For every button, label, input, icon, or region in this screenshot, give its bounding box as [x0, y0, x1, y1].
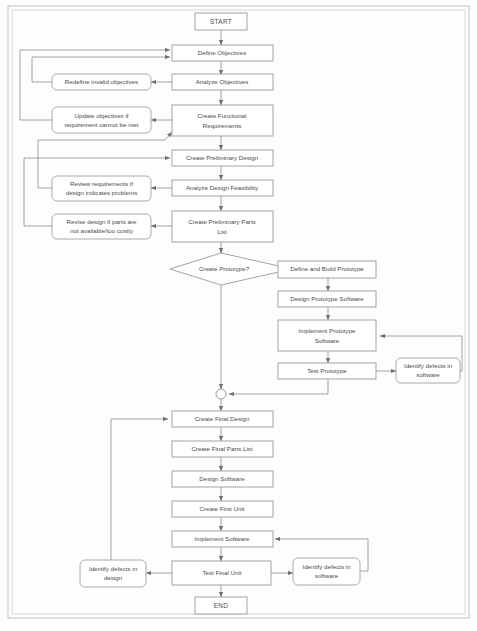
node-update-objectives-line1: Update objectives if [75, 112, 129, 119]
node-test-prototype[interactable]: Test Prototype [278, 363, 376, 379]
node-revise-design-line2: not available/too costly [70, 227, 134, 234]
node-redefine-invalid-objectives[interactable]: Redefine invalid objectives [52, 74, 151, 90]
node-update-objectives[interactable]: Update objectives if requirement cannot … [52, 107, 151, 133]
node-define-build-prototype[interactable]: Define and Build Prototype [278, 261, 376, 278]
node-create-preliminary-design[interactable]: Create Preliminary Design [172, 150, 273, 166]
node-create-preliminary-parts-list-line1: Create Preliminary Parts [188, 218, 255, 225]
node-create-preliminary-design-label: Create Preliminary Design [186, 154, 259, 161]
node-end[interactable]: END [195, 597, 247, 614]
node-end-label: END [214, 602, 228, 609]
node-test-final-unit-label: Test Final Unit [202, 569, 241, 576]
node-review-requirements-line2: design indicates problems [66, 189, 138, 196]
node-revise-design-line1: Revise design if parts are [67, 218, 137, 225]
node-analyze-design-feasibility-label: Analyze Design Feasibility [186, 184, 259, 191]
node-merge-point [216, 389, 226, 399]
node-review-requirements[interactable]: Review requirements if design indicates … [52, 176, 151, 201]
node-create-prototype-decision-label: Create Prototype? [199, 265, 250, 272]
node-identify-defects-design-line1: Identify defects in [89, 565, 138, 572]
node-update-objectives-line2: requirement cannot be met [65, 121, 139, 128]
node-start-label: START [210, 18, 232, 25]
node-analyze-design-feasibility[interactable]: Analyze Design Feasibility [172, 180, 273, 196]
node-create-functional-requirements-line2: Requirements [203, 122, 242, 129]
node-analyze-objectives-label: Analyze Objectives [196, 78, 249, 85]
node-define-objectives[interactable]: Define Objectives [172, 45, 273, 61]
node-create-final-design[interactable]: Create Final Design [172, 411, 273, 427]
edge-testproto-merge [229, 379, 328, 394]
node-identify-defects-software-bottom-line2: software [315, 572, 339, 579]
node-create-preliminary-parts-list-line2: List [217, 228, 227, 235]
node-identify-defects-software-top-line1: Identify defects in [404, 362, 453, 369]
node-design-software-label: Design Software [199, 475, 245, 482]
node-revise-design[interactable]: Revise design if parts are not available… [52, 214, 151, 239]
node-create-final-design-label: Create Final Design [195, 415, 250, 422]
node-identify-defects-software-top[interactable]: Identify defects in software [396, 358, 460, 383]
outer-frame [8, 6, 469, 618]
node-design-software[interactable]: Design Software [172, 471, 273, 487]
node-design-prototype-software[interactable]: Design Prototype Software [278, 291, 376, 307]
node-identify-defects-software-bottom-line1: Identify defects in [302, 563, 351, 570]
node-create-functional-requirements[interactable]: Create Functional Requirements [172, 105, 273, 136]
node-create-first-unit[interactable]: Create First Unit [172, 501, 273, 517]
node-create-prototype-decision[interactable]: Create Prototype? [170, 253, 292, 285]
node-define-objectives-label: Define Objectives [198, 49, 247, 56]
node-identify-defects-design[interactable]: Identify defects in design [80, 560, 146, 587]
node-identify-defects-software-top-line2: software [416, 371, 440, 378]
flowchart-canvas: START Define Objectives Analyze Objectiv… [0, 0, 477, 631]
node-implement-prototype-software-line2: Software [315, 337, 340, 344]
node-implement-prototype-software-line1: Implement Prototype [298, 327, 356, 334]
node-implement-prototype-software[interactable]: Implement Prototype Software [278, 320, 376, 351]
node-analyze-objectives[interactable]: Analyze Objectives [172, 74, 273, 90]
node-start[interactable]: START [195, 13, 247, 30]
node-implement-software[interactable]: Implement Software [172, 531, 273, 547]
node-identify-defects-software-bottom[interactable]: Identify defects in software [293, 558, 360, 585]
node-test-final-unit[interactable]: Test Final Unit [172, 561, 271, 585]
inner-frame [12, 10, 465, 614]
node-create-functional-requirements-line1: Create Functional [198, 112, 247, 119]
node-create-preliminary-parts-list[interactable]: Create Preliminary Parts List [172, 211, 273, 242]
node-redefine-invalid-objectives-label: Redefine invalid objectives [65, 78, 138, 85]
node-test-prototype-label: Test Prototype [307, 367, 347, 374]
node-review-requirements-line1: Review requirements if [70, 180, 133, 187]
node-create-final-parts-list-label: Create Final Parts List [191, 445, 252, 452]
node-create-final-parts-list[interactable]: Create Final Parts List [172, 441, 273, 457]
node-identify-defects-design-line2: design [104, 574, 123, 581]
flowchart-svg: START Define Objectives Analyze Objectiv… [0, 0, 477, 631]
node-create-first-unit-label: Create First Unit [199, 505, 244, 512]
edge-defectsdesign-finaldesign [111, 419, 168, 560]
node-implement-software-label: Implement Software [194, 535, 250, 542]
node-define-build-prototype-label: Define and Build Prototype [290, 265, 364, 272]
node-design-prototype-software-label: Design Prototype Software [290, 295, 364, 302]
